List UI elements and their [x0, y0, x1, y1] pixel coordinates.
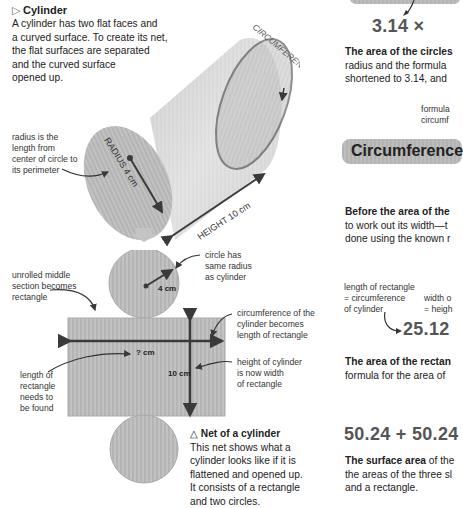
bottom-circle	[110, 415, 178, 483]
length-rect-note: length of rectangle = circumference of c…	[344, 282, 415, 315]
width-label: 10 cm	[168, 369, 191, 378]
circle-radius-label: 4 cm	[158, 284, 176, 293]
circle-note: circle has same radius as cylinder	[205, 250, 295, 283]
result-number: 25.12	[403, 319, 450, 340]
net-caption-heading: △ Net of a cylinder	[190, 427, 315, 441]
cylinder-illustration: RADIUS 4 cm HEIGHT 10 cm CIRCUMFERENCE	[0, 0, 300, 250]
sum-formula: 50.24 + 50.24	[344, 424, 459, 445]
height-note: height of cylinder is now width of recta…	[237, 357, 327, 390]
unrolled-note: unrolled middle section becomes rectangl…	[12, 270, 102, 303]
before-area-text: Before the area of the to work out its w…	[345, 205, 450, 246]
length-label: ? cm	[136, 348, 155, 357]
circles-area-text: The area of the circles radius and the f…	[345, 45, 453, 86]
circumference-pill-title: Circumference	[351, 142, 463, 160]
formula-top: 3.14 ×	[372, 16, 424, 37]
rect-area-text: The area of the rectan formula for the a…	[345, 355, 451, 382]
circumference-pill: Circumference	[342, 139, 462, 164]
radius-note: radius is the length from center of circ…	[12, 132, 102, 176]
triangle-up-icon: △	[190, 428, 198, 439]
width-note: width o = heigh	[424, 293, 452, 315]
formula-note: formula circumf	[421, 104, 450, 126]
surface-area-text: The surface area of the the areas of the…	[345, 454, 454, 495]
circumference-note: circumference of the cylinder becomes le…	[237, 308, 337, 341]
length-note: length of rectangle needs to be found	[20, 370, 80, 414]
net-caption: △ Net of a cylinder This net shows what …	[190, 427, 315, 508]
